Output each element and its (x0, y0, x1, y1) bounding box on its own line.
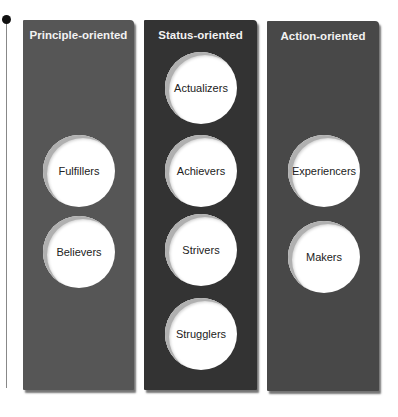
panel-title: Action-oriented (267, 30, 379, 42)
segment-strugglers: Strugglers (165, 298, 237, 370)
panel-title: Status-oriented (144, 29, 257, 41)
segment-fulfillers: Fulfillers (43, 135, 115, 207)
panel-status-oriented: Status-oriented Actualizers Achievers St… (144, 20, 257, 390)
axis-line (6, 20, 7, 388)
segment-strivers: Strivers (165, 214, 237, 286)
panel-action-oriented: Action-oriented Experiencers Makers (267, 21, 379, 391)
panel-title: Principle-oriented (23, 29, 134, 41)
segment-believers: Believers (43, 216, 115, 288)
panel-principle-oriented: Principle-oriented Fulfillers Believers (23, 20, 134, 390)
axis-dot-icon (2, 15, 11, 24)
segment-makers: Makers (288, 221, 360, 293)
segment-achievers: Achievers (165, 135, 237, 207)
segment-experiencers: Experiencers (288, 135, 360, 207)
segment-actualizers: Actualizers (165, 52, 237, 124)
